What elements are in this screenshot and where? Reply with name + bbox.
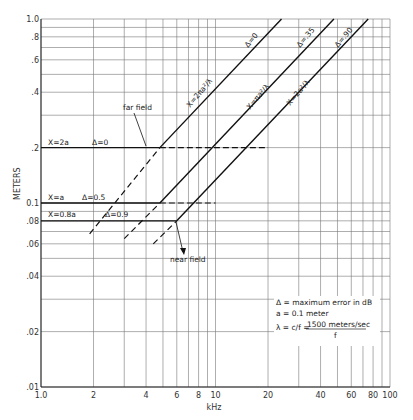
y-tick-label: 0.1 xyxy=(26,199,39,208)
x-tick-label: 40 xyxy=(315,391,325,400)
x-axis-label: kHz xyxy=(207,403,222,412)
x-tick-label: 8 xyxy=(196,391,201,400)
x-tick-label: 1.0 xyxy=(35,391,48,400)
x-tick-label: 10 xyxy=(210,391,220,400)
legend-line-3b: 1500 meters/sec xyxy=(307,320,370,329)
series-line xyxy=(153,221,177,244)
label-x-0-8a: X=0.8a xyxy=(48,210,76,219)
x-tick-label: 2 xyxy=(91,391,96,400)
legend-line-3a: λ = c/f = xyxy=(276,323,309,332)
x-tick-label: 80 xyxy=(368,391,378,400)
label-x-2a: X=2a xyxy=(48,138,69,147)
x-tick-label: 4 xyxy=(144,391,149,400)
y-tick-label: 1.0 xyxy=(26,15,39,24)
y-tick-label: .02 xyxy=(26,328,39,337)
label-delta-0-5: Δ=0.5 xyxy=(82,193,106,202)
label-far-field: far field xyxy=(123,103,152,112)
y-tick-label: .04 xyxy=(26,272,39,281)
series-lines xyxy=(41,19,368,255)
x-tick-label: 20 xyxy=(263,391,273,400)
y-tick-label: .6 xyxy=(31,56,39,65)
label-x-a: X=a xyxy=(48,193,64,202)
label-line1-eq: X=2πa²/λ xyxy=(185,76,215,109)
legend-line-2: a = 0.1 meter xyxy=(276,309,329,318)
label-delta-0-9: Δ=0.9 xyxy=(105,210,129,219)
x-tick-label: 100 xyxy=(382,391,397,400)
y-tick-label: .4 xyxy=(31,88,39,97)
label-near-field: near field xyxy=(170,255,206,264)
label-delta-0-left: Δ=0 xyxy=(92,138,108,147)
legend-line-1: Δ = maximum error in dB xyxy=(276,298,372,307)
y-tick-label: .06 xyxy=(26,240,39,249)
y-axis-label: METERS xyxy=(13,167,22,200)
label-line2-delta: Δ=.35 xyxy=(295,25,317,49)
y-tick-label: .01 xyxy=(26,383,39,392)
y-tick-label: .08 xyxy=(26,217,39,226)
log-log-chart: 1.0246810204060801001.0.8.6.4.20.1.08.06… xyxy=(0,0,413,420)
x-tick-label: 6 xyxy=(174,391,179,400)
y-tick-label: .2 xyxy=(31,144,39,153)
x-tick-label: 60 xyxy=(346,391,356,400)
label-line1-delta: Δ=0 xyxy=(243,31,260,49)
y-tick-label: .8 xyxy=(31,33,39,42)
legend-line-3c: f xyxy=(334,331,337,340)
label-line2-eq: X=πa²/λ xyxy=(245,82,272,112)
